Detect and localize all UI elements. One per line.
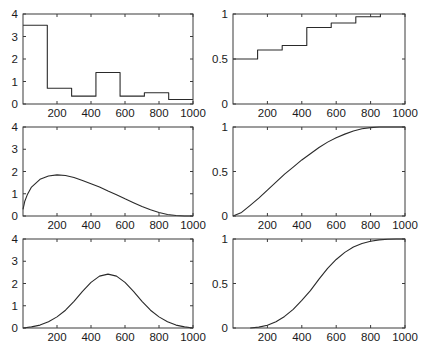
x-tick-label: 800: [149, 219, 168, 231]
y-tick-label: 1: [222, 121, 228, 133]
y-tick-label: 1: [12, 76, 18, 88]
x-tick-label: 1000: [180, 107, 206, 119]
data-line: [23, 274, 193, 328]
axes-box: [23, 127, 193, 216]
x-tick-label: 600: [115, 107, 134, 119]
x-tick-label: 800: [361, 107, 380, 119]
y-tick-label: 2: [12, 278, 18, 290]
x-tick-label: 800: [149, 107, 168, 119]
y-tick-label: 4: [12, 233, 19, 245]
x-tick-label: 800: [149, 331, 168, 343]
panel-skewed-cdf: 200400600800100000.51: [212, 121, 418, 231]
panel-symmetric-pdf: 200400600800100001234: [12, 233, 206, 343]
x-tick-label: 600: [327, 331, 346, 343]
data-line: [23, 25, 193, 99]
x-tick-label: 400: [81, 219, 100, 231]
y-tick-label: 0: [12, 98, 18, 110]
x-tick-label: 600: [327, 219, 346, 231]
x-tick-label: 400: [292, 107, 311, 119]
axes-box: [23, 14, 193, 104]
y-tick-label: 0.5: [212, 53, 228, 65]
x-tick-label: 200: [47, 107, 66, 119]
x-tick-label: 1000: [392, 331, 418, 343]
x-tick-label: 400: [81, 107, 100, 119]
y-tick-label: 1: [222, 233, 228, 245]
axes-box: [233, 239, 405, 328]
x-tick-label: 600: [115, 219, 134, 231]
panel-symmetric-cdf: 200400600800100000.51: [212, 233, 418, 343]
x-tick-label: 400: [81, 331, 100, 343]
x-tick-label: 800: [361, 331, 380, 343]
x-tick-label: 200: [258, 107, 277, 119]
x-tick-label: 200: [258, 219, 277, 231]
x-tick-label: 200: [47, 331, 66, 343]
y-tick-label: 0: [12, 322, 18, 334]
x-tick-label: 1000: [180, 219, 206, 231]
y-tick-label: 1: [12, 188, 18, 200]
y-tick-label: 0: [222, 210, 228, 222]
figure: 200400600800100001234 200400600800100000…: [0, 0, 425, 354]
y-tick-label: 2: [12, 53, 18, 65]
axes-box: [23, 239, 193, 328]
x-tick-label: 200: [258, 331, 277, 343]
x-tick-label: 1000: [392, 107, 418, 119]
y-tick-label: 3: [12, 143, 18, 155]
x-tick-label: 200: [47, 219, 66, 231]
x-tick-label: 600: [327, 107, 346, 119]
y-tick-label: 0.5: [212, 278, 228, 290]
y-tick-label: 0.5: [212, 166, 228, 178]
x-tick-label: 600: [115, 331, 134, 343]
y-tick-label: 0: [12, 210, 18, 222]
x-tick-label: 400: [292, 331, 311, 343]
y-tick-label: 3: [12, 255, 18, 267]
x-tick-label: 1000: [180, 331, 206, 343]
data-line: [233, 14, 380, 59]
data-line: [250, 239, 405, 328]
y-tick-label: 2: [12, 166, 18, 178]
panel-empirical-cdf: 200400600800100000.51: [212, 8, 418, 119]
y-tick-label: 4: [12, 121, 19, 133]
data-line: [233, 127, 405, 216]
y-tick-label: 4: [12, 8, 19, 20]
x-tick-label: 400: [292, 219, 311, 231]
y-tick-label: 1: [12, 300, 18, 312]
panel-histogram: 200400600800100001234: [12, 8, 206, 119]
x-tick-label: 1000: [392, 219, 418, 231]
y-tick-label: 0: [222, 98, 228, 110]
axes-box: [233, 127, 405, 216]
x-tick-label: 800: [361, 219, 380, 231]
y-tick-label: 0: [222, 322, 228, 334]
data-line: [23, 175, 193, 216]
panel-skewed-pdf: 200400600800100001234: [12, 121, 206, 231]
y-tick-label: 1: [222, 8, 228, 20]
y-tick-label: 3: [12, 31, 18, 43]
